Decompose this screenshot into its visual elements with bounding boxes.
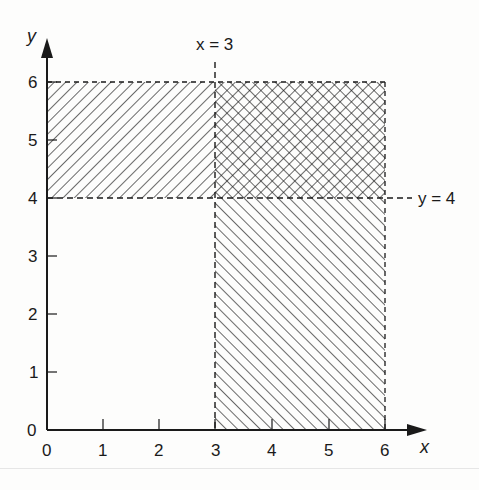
y-axis-label: y [25, 26, 37, 46]
x-tick-4: 4 [267, 441, 276, 460]
y-tick-5: 5 [28, 131, 37, 150]
y-tick-3: 3 [28, 247, 37, 266]
y-tick-1: 1 [29, 363, 38, 382]
x-tick-6: 6 [380, 441, 389, 460]
y-tick-4: 4 [28, 189, 37, 208]
inequality-graph: x = 3 y = 4 y x 0 1 2 3 4 5 6 [0, 0, 479, 490]
y-tick-labels: 0 1 2 3 4 5 6 [27, 73, 38, 440]
y-tick-0: 0 [27, 421, 36, 440]
x-tick-labels: 0 1 2 3 4 5 6 [42, 441, 389, 460]
y-tick-2: 2 [28, 305, 37, 324]
region-upper-left [47, 82, 215, 198]
boundary-label-x3: x = 3 [196, 35, 233, 54]
x-tick-1: 1 [98, 441, 107, 460]
divider [0, 468, 479, 469]
boundary-label-y4: y = 4 [418, 189, 455, 208]
y-tick-6: 6 [28, 73, 37, 92]
x-tick-5: 5 [324, 441, 333, 460]
x-tick-3: 3 [211, 441, 220, 460]
region-lower-right [215, 198, 385, 430]
x-axis-label: x [419, 437, 430, 457]
y-axis-arrow-icon [41, 38, 53, 58]
x-tick-0: 0 [42, 441, 51, 460]
x-tick-2: 2 [154, 441, 163, 460]
x-axis-arrow-icon [407, 424, 427, 436]
region-overlap [215, 82, 385, 198]
